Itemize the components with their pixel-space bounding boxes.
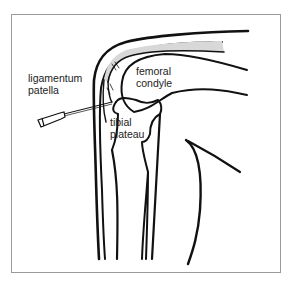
label-ligamentum-patella: ligamentum patella [28,72,82,96]
label-line: plateau [110,128,144,140]
label-tibial-plateau: tibial plateau [110,116,144,140]
label-femoral-condyle: femoral condyle [136,65,172,89]
label-line: ligamentum [28,72,82,84]
label-line: condyle [136,77,172,89]
label-line: patella [28,84,82,96]
calf-outline [186,140,201,264]
label-line: femoral [136,65,172,77]
knee-diagram [0,0,292,281]
fibula [142,172,148,259]
label-line: tibial [110,116,144,128]
tibia-left [112,150,117,259]
tibia-right [152,114,160,259]
